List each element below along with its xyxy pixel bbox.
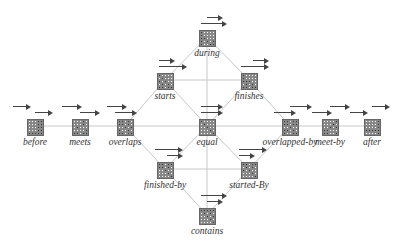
interval-b-arrow-icon: [80, 112, 96, 113]
interval-arrows: [135, 147, 195, 161]
interval-b-arrow-icon: [350, 112, 364, 113]
relation-matrix-icon: [27, 119, 44, 136]
interval-arrows: [177, 15, 237, 29]
relation-label: overlaps: [95, 137, 155, 147]
relation-matrix-icon: [117, 119, 134, 136]
interval-arrows: [219, 58, 279, 72]
interval-b-arrow-icon: [35, 112, 49, 113]
interval-b-arrow-icon: [241, 66, 265, 67]
relation-node-finishes: finishes: [219, 58, 279, 101]
relation-matrix-icon: [199, 208, 216, 225]
interval-a-arrow-icon: [239, 149, 263, 150]
interval-b-arrow-icon: [159, 66, 183, 67]
interval-a-arrow-icon: [372, 106, 386, 107]
interval-b-arrow-icon: [312, 112, 328, 113]
interval-arrows: [342, 104, 402, 118]
relation-node-started-By: started-By: [219, 147, 279, 190]
interval-a-arrow-icon: [159, 60, 171, 61]
interval-a-arrow-icon: [13, 106, 27, 107]
relation-matrix-icon: [199, 30, 216, 47]
interval-arrows: [219, 147, 279, 161]
interval-arrows: [177, 193, 237, 207]
relation-label: after: [342, 137, 402, 147]
interval-b-arrow-icon: [201, 23, 223, 24]
relation-label: equal: [177, 137, 237, 147]
relation-matrix-icon: [72, 119, 89, 136]
interval-arrows: [177, 104, 237, 118]
relation-label: finishes: [219, 91, 279, 101]
relation-label: started-By: [219, 180, 279, 190]
interval-b-arrow-icon: [167, 155, 179, 156]
relation-node-overlaps: overlaps: [95, 104, 155, 147]
interval-arrows: [95, 104, 155, 118]
relation-label: starts: [135, 91, 195, 101]
relation-node-contains: contains: [177, 193, 237, 236]
interval-a-arrow-icon: [201, 106, 219, 107]
interval-b-arrow-icon: [274, 112, 292, 113]
interval-b-arrow-icon: [115, 112, 133, 113]
interval-a-arrow-icon: [155, 149, 179, 150]
relation-node-equal: equal: [177, 104, 237, 147]
interval-b-arrow-icon: [201, 112, 219, 113]
interval-a-arrow-icon: [253, 60, 265, 61]
relation-label: finished-by: [135, 180, 195, 190]
interval-b-arrow-icon: [207, 201, 219, 202]
interval-a-arrow-icon: [201, 195, 223, 196]
interval-b-arrow-icon: [239, 155, 251, 156]
relation-matrix-icon: [157, 73, 174, 90]
interval-a-arrow-icon: [207, 17, 219, 18]
relation-matrix-icon: [364, 119, 381, 136]
relation-matrix-icon: [157, 162, 174, 179]
relation-label: during: [177, 48, 237, 58]
interval-arrows: [135, 58, 195, 72]
relation-label: contains: [177, 226, 237, 236]
interval-a-arrow-icon: [107, 106, 123, 107]
relation-node-after: after: [342, 104, 402, 147]
relation-node-finished-by: finished-by: [135, 147, 195, 190]
relation-node-during: during: [177, 15, 237, 58]
relation-matrix-icon: [322, 119, 339, 136]
relation-node-starts: starts: [135, 58, 195, 101]
interval-a-arrow-icon: [62, 106, 78, 107]
relation-matrix-icon: [241, 162, 258, 179]
relation-matrix-icon: [199, 119, 216, 136]
relation-matrix-icon: [282, 119, 299, 136]
relation-matrix-icon: [241, 73, 258, 90]
